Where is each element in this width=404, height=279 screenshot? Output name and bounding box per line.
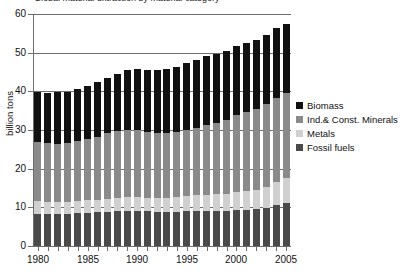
bar-segment	[134, 69, 141, 130]
bar-2003	[263, 14, 270, 246]
bar-segment	[104, 212, 111, 246]
bar-segment	[203, 211, 210, 246]
bar-segment	[213, 123, 220, 195]
bar-1994	[173, 14, 180, 246]
y-tick-label: 10	[0, 202, 26, 212]
bar-segment	[114, 211, 121, 246]
legend-item-metals[interactable]: Metals	[296, 127, 404, 140]
x-tick-mark	[107, 247, 108, 251]
bar-segment	[74, 201, 81, 213]
bar-segment	[283, 24, 290, 93]
legend-swatch-icon	[296, 130, 303, 137]
chart-legend: BiomassInd.& Const. MineralsMetalsFossil…	[296, 99, 404, 155]
x-axis-line	[33, 246, 291, 247]
bar-segment	[183, 63, 190, 130]
bar-segment	[223, 194, 230, 211]
bar-1999	[223, 14, 230, 246]
bar-segment	[233, 192, 240, 210]
y-tick-label: 30	[0, 125, 26, 135]
bar-segment	[163, 198, 170, 212]
bar-segment	[243, 191, 250, 210]
bar-1998	[213, 14, 220, 246]
x-tick-label: 2000	[216, 254, 256, 265]
bar-segment	[144, 198, 151, 212]
x-tick-label: 1980	[18, 254, 58, 265]
legend-swatch-icon	[296, 116, 303, 123]
bar-2005	[283, 14, 290, 246]
bar-segment	[154, 133, 161, 198]
bar-2004	[273, 14, 280, 246]
bar-segment	[183, 196, 190, 211]
bar-segment	[263, 187, 270, 208]
bar-segment	[213, 211, 220, 246]
bar-1993	[163, 14, 170, 246]
bar-segment	[34, 142, 41, 202]
bar-segment	[173, 132, 180, 197]
bar-1980	[34, 14, 41, 246]
bar-segment	[94, 200, 101, 212]
bar-1984	[74, 14, 81, 246]
bar-segment	[213, 54, 220, 122]
bar-segment	[134, 211, 141, 246]
bar-segment	[94, 137, 101, 200]
bar-segment	[253, 109, 260, 190]
bar-segment	[283, 178, 290, 203]
legend-swatch-icon	[296, 102, 303, 109]
x-tick-mark	[88, 247, 89, 251]
x-tick-mark	[78, 247, 79, 251]
bar-1996	[193, 14, 200, 246]
bar-segment	[154, 212, 161, 246]
x-tick-mark	[48, 247, 49, 251]
chart-title-strip: Global material extraction by material c…	[0, 0, 404, 6]
bar-segment	[144, 70, 151, 132]
bar-segment	[154, 70, 161, 133]
bar-segment	[64, 143, 71, 202]
x-tick-mark	[276, 247, 277, 251]
x-tick-mark	[217, 247, 218, 251]
bar-segment	[243, 43, 250, 111]
bar-1981	[44, 14, 51, 246]
bar-segment	[54, 214, 61, 246]
y-tick-mark	[28, 246, 33, 247]
bar-segment	[84, 213, 91, 246]
bar-2000	[233, 14, 240, 246]
bar-1985	[84, 14, 91, 246]
bar-segment	[273, 28, 280, 97]
bar-segment	[193, 211, 200, 246]
bar-segment	[94, 82, 101, 136]
bar-2002	[253, 14, 260, 246]
bar-2001	[243, 14, 250, 246]
bar-segment	[273, 182, 280, 205]
legend-item-biomass[interactable]: Biomass	[296, 99, 404, 112]
legend-item-fossil-fuels[interactable]: Fossil fuels	[296, 141, 404, 154]
bar-segment	[94, 212, 101, 246]
y-tick-label: 20	[0, 164, 26, 174]
bar-segment	[203, 56, 210, 126]
bar-1995	[183, 14, 190, 246]
bar-segment	[134, 197, 141, 211]
bar-segment	[253, 40, 260, 109]
bar-1989	[124, 14, 131, 246]
bar-segment	[193, 128, 200, 195]
bar-segment	[44, 214, 51, 246]
x-tick-mark	[98, 247, 99, 251]
legend-item-ind-const-minerals[interactable]: Ind.& Const. Minerals	[296, 113, 404, 126]
bar-segment	[223, 51, 230, 120]
bar-segment	[173, 197, 180, 212]
x-tick-mark	[58, 247, 59, 251]
bar-segment	[104, 133, 111, 199]
x-tick-mark	[137, 247, 138, 251]
y-tick-label: 60	[0, 9, 26, 19]
x-tick-mark	[246, 247, 247, 251]
plot-area	[33, 14, 291, 246]
bar-segment	[34, 201, 41, 214]
x-tick-mark	[236, 247, 237, 251]
bar-segment	[233, 210, 240, 246]
bar-1982	[54, 14, 61, 246]
bar-segment	[263, 208, 270, 246]
x-tick-mark	[197, 247, 198, 251]
y-tick-label: 0	[0, 241, 26, 251]
bar-segment	[44, 202, 51, 214]
bar-segment	[163, 69, 170, 133]
bar-segment	[54, 144, 61, 202]
